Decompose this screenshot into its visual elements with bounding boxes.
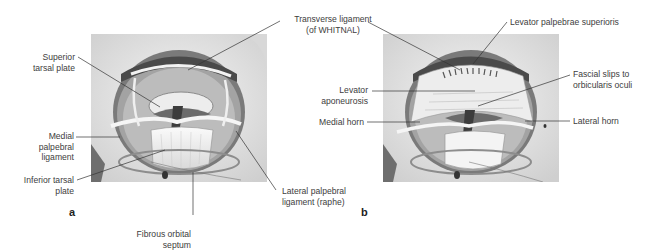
label-line: Superior bbox=[20, 52, 75, 63]
label-fibrous-orbital-septum: Fibrous orbital septum bbox=[120, 229, 191, 250]
label-medial-horn: Medial horn bbox=[300, 117, 364, 128]
label-line: Lateral palpebral bbox=[282, 186, 346, 197]
label-fascial-slips: Fascial slips to orbicularis oculi bbox=[573, 69, 632, 90]
label-transverse-ligament: Transverse ligament (of WHITNAL) bbox=[283, 14, 383, 35]
label-line: tarsal plate bbox=[20, 63, 75, 74]
orbit-illustration-a bbox=[91, 34, 267, 182]
panel-letter-b: b bbox=[361, 206, 368, 218]
label-lateral-palpebral-ligament: Lateral palpebral ligament (raphe) bbox=[282, 186, 346, 207]
label-superior-tarsal-plate: Superior tarsal plate bbox=[20, 52, 75, 73]
label-line: aponeurosis bbox=[320, 96, 368, 107]
label-line: Levator bbox=[320, 85, 368, 96]
label-medial-palpebral-ligament: Medial palpebral ligament bbox=[20, 131, 74, 163]
label-line: Fascial slips to bbox=[573, 69, 632, 80]
label-line: ligament bbox=[20, 152, 74, 163]
label-line: palpebral bbox=[20, 142, 74, 153]
illustration-panel-a bbox=[91, 34, 267, 182]
label-line: Fibrous orbital bbox=[120, 229, 191, 240]
illustration-panel-b bbox=[383, 34, 559, 182]
panel-letter-a: a bbox=[69, 206, 75, 218]
label-line: ligament (raphe) bbox=[282, 197, 346, 208]
label-line: plate bbox=[10, 186, 74, 197]
orbit-illustration-b bbox=[383, 34, 559, 182]
label-line: orbicularis oculi bbox=[573, 80, 632, 91]
label-inferior-tarsal-plate: Inferior tarsal plate bbox=[10, 175, 74, 196]
label-lateral-horn: Lateral horn bbox=[573, 116, 619, 127]
label-line: (of WHITNAL) bbox=[283, 25, 383, 36]
label-line: Transverse ligament bbox=[283, 14, 383, 25]
label-line: Medial bbox=[20, 131, 74, 142]
label-line: septum bbox=[120, 240, 191, 250]
label-line: Inferior tarsal bbox=[10, 175, 74, 186]
label-levator-aponeurosis: Levator aponeurosis bbox=[320, 85, 368, 106]
label-levator-palpebrae-superioris: Levator palpebrae superioris bbox=[510, 17, 619, 28]
